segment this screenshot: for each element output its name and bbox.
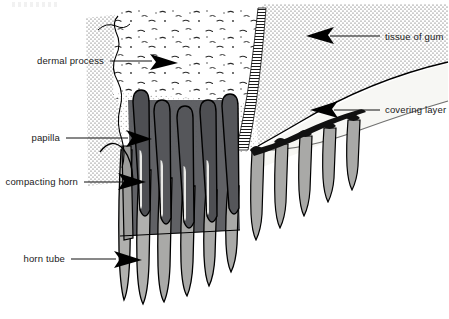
callout-compacting-horn: compacting horn bbox=[6, 173, 146, 190]
label-tissue-of-gum: tissue of gum bbox=[385, 31, 443, 42]
diagram-canvas: dermal process papilla compacting horn h… bbox=[0, 0, 449, 319]
label-dermal-process: dermal process bbox=[37, 55, 104, 66]
label-covering-layer: covering layer bbox=[385, 104, 446, 115]
label-compacting-horn: compacting horn bbox=[6, 176, 78, 187]
label-horn-tube: horn tube bbox=[24, 253, 66, 264]
horn-structure-figure: dermal process papilla compacting horn h… bbox=[0, 0, 449, 319]
label-papilla: papilla bbox=[31, 132, 60, 143]
